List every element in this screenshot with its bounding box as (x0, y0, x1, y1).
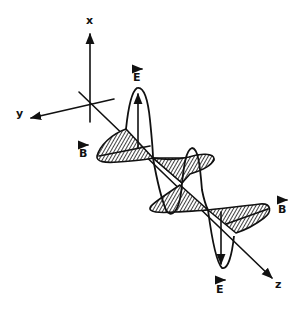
b-lobe-right (208, 204, 270, 233)
e-label-bottom: E (216, 280, 225, 296)
b-lobe-left (97, 129, 153, 162)
svg-text:B: B (278, 203, 286, 216)
y-axis (31, 99, 114, 118)
x-axis-label: x (86, 14, 93, 27)
z-axis-label: z (275, 278, 281, 291)
svg-text:E: E (133, 71, 141, 84)
magnetic-field-wave (97, 129, 270, 233)
b-label-left: B (79, 145, 88, 160)
svg-text:B: B (79, 147, 87, 160)
y-axis-label: y (16, 107, 23, 120)
svg-text:E: E (216, 283, 224, 296)
b-label-right: B (278, 200, 287, 216)
z-axis (79, 92, 272, 278)
e-label-top: E (133, 69, 142, 84)
em-wave-diagram: x y z E E B B (0, 0, 300, 313)
